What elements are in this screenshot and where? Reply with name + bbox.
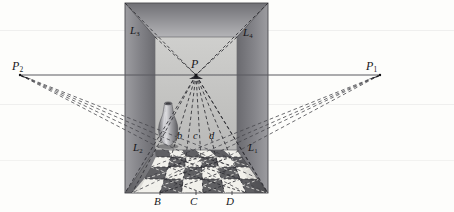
label-L3: L3 [130,25,140,37]
label-P1: P1 [366,60,377,73]
label-L2: L2 [133,142,143,154]
label-c: c [193,131,198,142]
label-P: P [191,58,198,70]
perspective-diagram-svg [0,0,454,212]
label-b: b [177,131,182,142]
label-P2: P2 [12,60,23,73]
vase-opening [166,103,171,105]
vanishing-point-P1 [379,74,381,76]
label-B: B [154,196,161,207]
figure-canvas: P P1 P2 L3 L4 L2 L1 b c d B C D [0,0,454,212]
vanishing-point-P2 [19,74,21,76]
label-d: d [209,131,214,142]
label-D: D [226,196,234,207]
label-L1: L1 [248,142,258,154]
label-L4: L4 [243,27,253,39]
label-C: C [190,196,197,207]
vanishing-point-P [194,73,197,76]
